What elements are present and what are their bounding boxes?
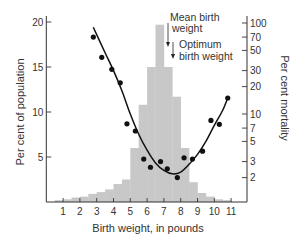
y-tick-label-left: 10 [32,107,44,118]
mortality-data-point [225,95,230,100]
optimum-arrow-icon [171,54,175,59]
y-tick-label-right: 100 [250,18,267,29]
x-tick-label: 1 [60,206,66,217]
y-tick-label-right: 5 [250,136,256,147]
y-tick-label-left: 15 [32,62,44,73]
annotation-optimum-line2: birth weight [179,50,233,62]
mortality-data-point [91,34,96,39]
histogram-bar [189,182,198,202]
annotation-mean-line2: weight [171,22,202,34]
histogram-bar [172,97,181,202]
mortality-data-point [109,67,114,72]
histogram-bar [122,180,131,203]
histogram-bar [88,194,97,202]
histogram-bar [198,193,207,202]
histogram-bar [97,192,106,202]
y-tick-label-right: 3 [250,156,256,167]
y-tick-label-right: 30 [250,65,262,76]
x-tick-label: 2 [77,206,83,217]
y-tick-label-left: 20 [32,17,44,28]
histogram-bar [164,67,173,202]
mortality-data-point [165,166,170,171]
annotations: Mean birth weight Optimum birth weight [166,11,233,62]
y-tick-label-right: 50 [250,45,262,56]
histogram-bar [156,25,165,202]
y-tick-label-right: 7 [250,123,256,134]
mortality-data-point [217,122,222,127]
histogram-bar [206,197,215,202]
x-tick-label: 9 [195,206,201,217]
histogram-bar [105,189,114,202]
mortality-data-point [200,149,205,154]
mortality-data-point [158,159,163,164]
mean-arrow-icon [166,42,170,47]
x-tick-label: 6 [144,206,150,217]
x-tick-label: 10 [209,206,221,217]
mortality-data-point [99,55,104,60]
histogram-bar [147,67,156,202]
x-tick-label: 7 [161,206,167,217]
y-tick-label-right: 10 [250,109,262,120]
y-axis-label-right: Per cent mortality [279,55,291,141]
y-axis-label-left: Per cent of population [14,58,26,165]
y-tick-label-left: 5 [38,152,44,163]
x-tick-label: 4 [111,206,117,217]
y-tick-label-right: 20 [250,81,262,92]
histogram-bar [130,148,139,202]
x-tick-label: 3 [94,206,100,217]
histogram-bar [80,197,89,202]
mortality-data-point [133,128,138,133]
mortality-data-point [181,155,186,160]
y-tick-label-right: 70 [250,32,262,43]
histogram-bar [114,184,123,202]
birth-weight-mortality-chart: 1234567891011510152023571020305070100 Me… [0,0,294,244]
annotation-optimum-line1: Optimum [179,38,222,50]
x-tick-label: 8 [178,206,184,217]
mortality-data-point [190,156,195,161]
chart-canvas: 1234567891011510152023571020305070100 Me… [0,0,294,244]
y-tick-label-right: 2 [250,172,256,183]
x-tick-label: 5 [128,206,134,217]
x-axis-label: Birth weight, in pounds [92,222,204,234]
x-tick-label: 11 [226,206,237,217]
mortality-data-point [124,121,129,126]
mortality-data-point [141,156,146,161]
histogram-bar [139,105,148,202]
mortality-data-point [175,175,180,180]
mortality-data-point [148,165,153,170]
mortality-data-point [118,80,123,85]
mortality-data-point [208,118,213,123]
histogram-bar [72,198,81,203]
